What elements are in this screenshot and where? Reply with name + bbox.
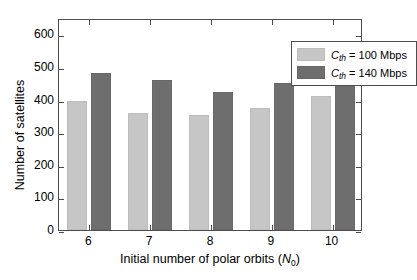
y-tick-mark: [59, 36, 64, 37]
bar-group: [250, 20, 294, 230]
y-tick-mark-right: [356, 102, 361, 103]
x-tick-mark: [272, 225, 273, 230]
y-tick-label-100: 100: [14, 190, 54, 204]
bar-6-series0: [67, 101, 87, 230]
bar-group: [128, 20, 172, 230]
x-tick-mark-top: [150, 20, 151, 25]
y-tick-mark: [59, 167, 64, 168]
legend-label-1: Cth = 140 Mbps: [331, 67, 407, 79]
chart-legend: Cth = 100 Mbps Cth = 140 Mbps: [291, 41, 417, 86]
x-tick-label-7: 7: [129, 234, 169, 248]
x-tick-mark: [211, 225, 212, 230]
x-tick-mark-top: [211, 20, 212, 25]
x-tick-mark: [333, 225, 334, 230]
legend-subscript-0: th: [339, 53, 346, 63]
y-tick-mark-right: [356, 232, 361, 233]
x-tick-label-9: 9: [251, 234, 291, 248]
y-tick-mark-right: [356, 134, 361, 135]
y-tick-label-400: 400: [14, 93, 54, 107]
bar-group: [189, 20, 233, 230]
x-tick-label-10: 10: [312, 234, 352, 248]
y-tick-mark: [59, 232, 64, 233]
legend-item-1: Cth = 140 Mbps: [297, 64, 411, 81]
y-tick-mark: [59, 199, 64, 200]
bar-10-series1: [335, 74, 355, 230]
x-tick-mark-top: [272, 20, 273, 25]
x-axis-label-suffix: ): [296, 252, 300, 266]
legend-swatch-dark-gray: [297, 66, 325, 79]
x-tick-label-6: 6: [68, 234, 108, 248]
bar-6-series1: [91, 73, 111, 230]
bar-7-series0: [128, 113, 148, 230]
legend-value-0: = 100 Mbps: [346, 49, 407, 61]
bar-10-series0: [311, 96, 331, 230]
plot-area: Cth = 100 Mbps Cth = 140 Mbps: [58, 19, 362, 231]
legend-label-0: Cth = 100 Mbps: [331, 49, 407, 61]
legend-subscript-1: th: [339, 71, 346, 81]
x-tick-mark: [89, 225, 90, 230]
bar-9-series0: [250, 108, 270, 230]
x-tick-label-8: 8: [190, 234, 230, 248]
x-tick-mark-top: [333, 20, 334, 25]
y-tick-label-600: 600: [14, 27, 54, 41]
x-tick-mark-top: [89, 20, 90, 25]
legend-symbol-1: C: [331, 67, 339, 79]
x-axis-label-prefix: Initial number of polar orbits (: [120, 252, 282, 266]
x-axis-label-subscript: 0: [291, 258, 296, 268]
legend-symbol-0: C: [331, 49, 339, 61]
y-tick-mark-right: [356, 199, 361, 200]
y-tick-mark-right: [356, 167, 361, 168]
y-tick-mark: [59, 134, 64, 135]
legend-value-1: = 140 Mbps: [346, 67, 407, 79]
x-tick-mark: [150, 225, 151, 230]
bar-9-series1: [274, 83, 294, 230]
y-tick-mark-right: [356, 36, 361, 37]
legend-swatch-light-gray: [297, 48, 325, 61]
bar-8-series1: [213, 92, 233, 230]
y-tick-label-500: 500: [14, 60, 54, 74]
y-tick-label-200: 200: [14, 158, 54, 172]
x-axis-label: Initial number of polar orbits (N0): [58, 252, 362, 266]
bar-7-series1: [152, 80, 172, 230]
bar-group: [67, 20, 111, 230]
bar-8-series0: [189, 115, 209, 230]
legend-item-0: Cth = 100 Mbps: [297, 46, 411, 63]
y-tick-mark: [59, 102, 64, 103]
x-axis-label-symbol: N: [282, 252, 291, 266]
y-tick-label-300: 300: [14, 125, 54, 139]
y-tick-label-0: 0: [14, 223, 54, 237]
y-tick-mark: [59, 69, 64, 70]
